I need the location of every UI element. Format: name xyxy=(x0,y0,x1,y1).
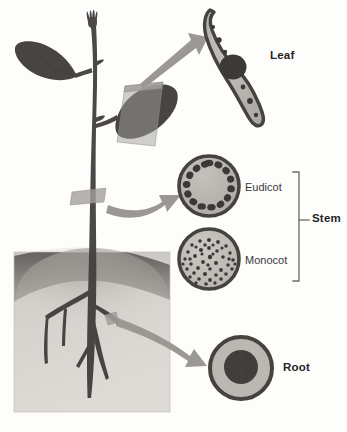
stem-bracket xyxy=(293,172,299,281)
plant-anatomy-figure: Leaf Eudicot Monocot Stem Root xyxy=(0,0,347,432)
label-eudicot: Eudicot xyxy=(245,182,282,193)
label-leaf: Leaf xyxy=(270,50,294,62)
label-monocot: Monocot xyxy=(245,255,287,266)
label-root: Root xyxy=(283,362,310,374)
label-stem: Stem xyxy=(312,213,341,225)
